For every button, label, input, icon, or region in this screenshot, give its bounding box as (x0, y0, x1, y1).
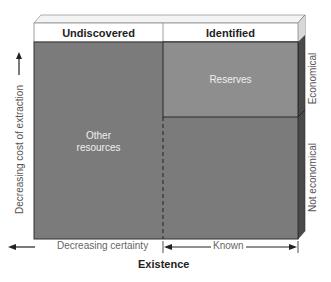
x-axis-known-label: Known (211, 240, 246, 251)
y-axis-arrow-head-icon (16, 52, 22, 59)
box-top-face (34, 15, 305, 23)
box-side-face (298, 15, 305, 239)
y-axis-label: Decreasing cost of extraction (14, 75, 25, 225)
other-resources-line1: Other (34, 130, 163, 142)
x-axis-title: Existence (138, 258, 189, 270)
x-axis-left-arrow-head-icon (8, 244, 16, 250)
undiscovered-header: Undiscovered (34, 23, 163, 42)
economical-label: Economical (307, 29, 318, 129)
x-axis-left-label: Decreasing certainty (55, 240, 150, 251)
identified-header: Identified (163, 23, 298, 42)
not-economical-label: Not economical (307, 128, 318, 228)
x-axis-known-right-head-icon (289, 244, 297, 250)
other-resources-label: Other resources (34, 130, 163, 154)
x-axis-known-left-head-icon (164, 244, 172, 250)
reserves-label: Reserves (163, 74, 298, 86)
other-resources-line2: resources (34, 142, 163, 154)
